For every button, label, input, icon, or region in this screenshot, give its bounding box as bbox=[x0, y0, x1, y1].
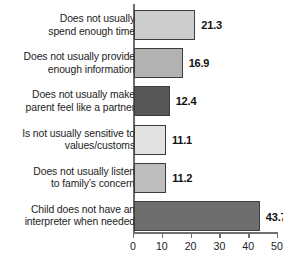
bar-value-label: 21.3 bbox=[201, 19, 222, 31]
plot-area: Does not usually spend enough time21.3Do… bbox=[0, 0, 283, 232]
x-tick-label: 0 bbox=[130, 240, 136, 252]
x-tick-mark bbox=[277, 232, 278, 238]
bar-row: Is not usually sensitive to values/custo… bbox=[0, 121, 283, 159]
bar-value-text: 16.9 bbox=[189, 57, 210, 69]
bar-value-label: 11.2 bbox=[172, 172, 192, 184]
bar bbox=[134, 163, 166, 193]
bar bbox=[134, 125, 166, 155]
x-tick-mark bbox=[191, 232, 192, 238]
bar-value-text: 43.7 bbox=[266, 211, 283, 223]
bar-row: Does not usually provide enough informat… bbox=[0, 44, 283, 82]
bar bbox=[134, 86, 170, 116]
bar-row: Child does not have an interpreter when … bbox=[0, 197, 283, 235]
category-label: Does not usually listen to family’s conc… bbox=[33, 165, 135, 190]
category-label: Is not usually sensitive to values/custo… bbox=[22, 127, 135, 152]
bar-row: Does not usually make parent feel like a… bbox=[0, 82, 283, 120]
bar-value-text: 11.1 bbox=[172, 134, 192, 146]
bar-value-label: 16.9 bbox=[189, 57, 210, 69]
bar-rows: Does not usually spend enough time21.3Do… bbox=[0, 6, 283, 235]
bar-row: Does not usually spend enough time21.3 bbox=[0, 6, 283, 44]
x-tick-label: 50 bbox=[271, 240, 283, 252]
x-tick-label: 10 bbox=[156, 240, 168, 252]
bar-value-text: 21.3 bbox=[201, 19, 222, 31]
bar bbox=[134, 10, 195, 40]
category-label: Does not usually make parent feel like a… bbox=[26, 89, 135, 114]
category-label: Child does not have an interpreter when … bbox=[25, 204, 135, 229]
bar-value-text: 12.4 bbox=[176, 95, 197, 107]
bar-value-label: 43.7† bbox=[266, 209, 283, 224]
bar bbox=[134, 48, 183, 78]
bar-row: Does not usually listen to family’s conc… bbox=[0, 159, 283, 197]
horizontal-bar-chart: Does not usually spend enough time21.3Do… bbox=[0, 0, 283, 263]
bar-value-label: 11.1 bbox=[172, 134, 192, 146]
x-tick-mark bbox=[133, 232, 134, 238]
bar-value-text: 11.2 bbox=[172, 172, 192, 184]
x-tick-mark bbox=[248, 232, 249, 238]
x-tick-mark bbox=[219, 232, 220, 238]
x-tick-label: 30 bbox=[213, 240, 225, 252]
x-tick-label: 20 bbox=[185, 240, 197, 252]
x-tick-label: 40 bbox=[242, 240, 254, 252]
category-label: Does not usually provide enough informat… bbox=[24, 51, 135, 76]
x-axis-line bbox=[133, 232, 277, 234]
category-label: Does not usually spend enough time bbox=[48, 13, 135, 38]
bar-value-label: 12.4 bbox=[176, 95, 197, 107]
x-axis: 01020304050 bbox=[0, 232, 283, 263]
x-tick-mark bbox=[162, 232, 163, 238]
bar bbox=[134, 201, 260, 231]
